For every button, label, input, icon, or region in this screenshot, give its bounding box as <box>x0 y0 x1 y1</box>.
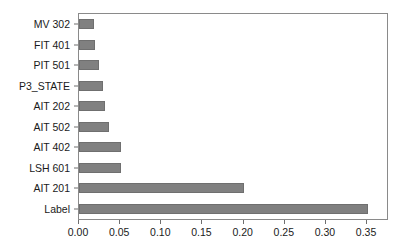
y-tick-group: AIT 402 <box>0 137 78 158</box>
x-tickmark <box>160 220 161 224</box>
bar <box>79 122 109 132</box>
x-tickmark <box>78 220 79 224</box>
y-axis-label: P3_STATE <box>19 81 70 92</box>
y-tick-group: AIT 502 <box>0 117 78 138</box>
x-axis-label: 0.05 <box>109 227 129 238</box>
bar <box>79 142 121 152</box>
bar <box>79 19 94 29</box>
x-axis-label: 0.10 <box>150 227 170 238</box>
bar <box>79 163 121 173</box>
x-tickmark <box>366 220 367 224</box>
x-tickmark <box>201 220 202 224</box>
x-tickmark <box>325 220 326 224</box>
y-axis-label: LSH 601 <box>29 163 70 174</box>
y-tickmark <box>74 106 78 107</box>
bar <box>79 40 95 50</box>
bar-chart: LabelAIT 201LSH 601AIT 402AIT 502AIT 202… <box>0 0 404 251</box>
y-tickmark <box>74 167 78 168</box>
y-axis: LabelAIT 201LSH 601AIT 402AIT 502AIT 202… <box>0 14 78 219</box>
bar <box>79 60 99 70</box>
x-axis-label: 0.20 <box>232 227 252 238</box>
y-tick-group: AIT 201 <box>0 178 78 199</box>
x-axis-label: 0.35 <box>356 227 376 238</box>
y-axis-label: AIT 201 <box>33 183 70 194</box>
x-axis: 0.000.050.100.150.200.250.300.35 <box>78 220 389 251</box>
y-tickmark <box>74 126 78 127</box>
y-tick-group: LSH 601 <box>0 158 78 179</box>
x-tickmark <box>284 220 285 224</box>
y-tick-group: P3_STATE <box>0 76 78 97</box>
y-tickmark <box>74 208 78 209</box>
bar <box>79 101 105 111</box>
x-tickmark <box>243 220 244 224</box>
y-tickmark <box>74 147 78 148</box>
bar <box>79 81 103 91</box>
y-axis-label: MV 302 <box>34 19 70 30</box>
y-axis-label: AIT 502 <box>33 122 70 133</box>
y-tick-group: AIT 202 <box>0 96 78 117</box>
y-tickmark <box>74 85 78 86</box>
y-tickmark <box>74 65 78 66</box>
bars-layer <box>79 14 387 219</box>
x-axis-label: 0.25 <box>274 227 294 238</box>
y-tickmark <box>74 44 78 45</box>
y-axis-label: FIT 401 <box>34 40 70 51</box>
y-axis-label: AIT 202 <box>33 101 70 112</box>
y-axis-label: Label <box>44 204 70 215</box>
y-axis-label: AIT 402 <box>33 142 70 153</box>
bar <box>79 204 368 214</box>
y-tick-group: Label <box>0 199 78 220</box>
y-axis-label: PIT 501 <box>33 60 70 71</box>
bar <box>79 183 244 193</box>
y-tick-group: PIT 501 <box>0 55 78 76</box>
y-tick-group: FIT 401 <box>0 35 78 56</box>
x-axis-label: 0.30 <box>315 227 335 238</box>
y-tick-group: MV 302 <box>0 14 78 35</box>
x-tickmark <box>119 220 120 224</box>
y-tickmark <box>74 24 78 25</box>
x-axis-label: 0.00 <box>68 227 88 238</box>
x-axis-label: 0.15 <box>191 227 211 238</box>
y-tickmark <box>74 188 78 189</box>
